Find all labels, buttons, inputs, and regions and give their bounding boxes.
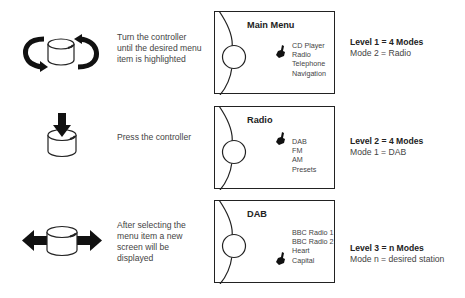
description-line: Press the controller (117, 132, 191, 143)
screen-dab: DAB BBC Radio 1 BBC Radio 2 Heart Capita… (214, 200, 335, 283)
level-1-info: Level 1 = 4 Modes Mode 2 = Radio (350, 37, 423, 59)
step-1-description: Turn the controller until the desired me… (117, 32, 202, 65)
menu-item: Navigation (292, 69, 326, 78)
description-line: menu item a new (117, 231, 186, 242)
menu-list: BBC Radio 1 BBC Radio 2 Heart Capital (292, 228, 334, 265)
menu-item: BBC Radio 1 (292, 228, 334, 237)
description-line: until the desired menu (117, 43, 202, 54)
description-line: item is highlighted (117, 54, 202, 65)
screen-title: Radio (247, 115, 273, 125)
step-3-description: After selecting the menu item a new scre… (117, 220, 186, 264)
menu-item: FM (292, 146, 316, 155)
level-2-info: Level 2 = 4 Modes Mode 1 = DAB (350, 136, 423, 158)
level-heading: Level 2 = 4 Modes (350, 136, 423, 146)
menu-item-selected: Radio (292, 50, 326, 59)
level-heading: Level 3 = n Modes (350, 243, 424, 253)
screen-radio: Radio DAB FM AM Presets (214, 106, 335, 189)
menu-item-selected: DAB (292, 137, 316, 146)
pointer-hand-icon (276, 45, 286, 58)
level-3-info: Level 3 = n Modes Mode n = desired stati… (350, 243, 444, 265)
level-detail: Mode n = desired station (350, 254, 444, 265)
menu-item: BBC Radio 2 (292, 237, 334, 246)
menu-list: DAB FM AM Presets (292, 137, 316, 174)
menu-item: Presets (292, 165, 316, 174)
description-line: After selecting the (117, 220, 186, 231)
menu-item: Telephone (292, 59, 326, 68)
menu-list: CD Player Radio Telephone Navigation (292, 41, 326, 78)
description-line: screen will be (117, 242, 186, 253)
description-line: displayed (117, 253, 186, 264)
menu-item-selected: Capital (292, 256, 334, 265)
menu-item: Heart (292, 246, 334, 255)
pointer-hand-icon (276, 132, 286, 145)
level-heading: Level 1 = 4 Modes (350, 37, 423, 47)
rotate-controller-icon (22, 30, 100, 74)
level-detail: Mode 2 = Radio (350, 48, 423, 59)
step-2-description: Press the controller (117, 132, 191, 143)
slide-controller-icon (22, 224, 102, 260)
screen-title: Main Menu (247, 20, 294, 30)
menu-item: CD Player (292, 41, 326, 50)
menu-item: AM (292, 155, 316, 164)
description-line: Turn the controller (117, 32, 202, 43)
screen-main-menu: Main Menu CD Player Radio Telephone Navi… (214, 11, 335, 94)
screen-title: DAB (247, 209, 267, 219)
level-detail: Mode 1 = DAB (350, 147, 423, 158)
press-controller-icon (44, 113, 80, 165)
pointer-hand-icon (276, 252, 286, 265)
